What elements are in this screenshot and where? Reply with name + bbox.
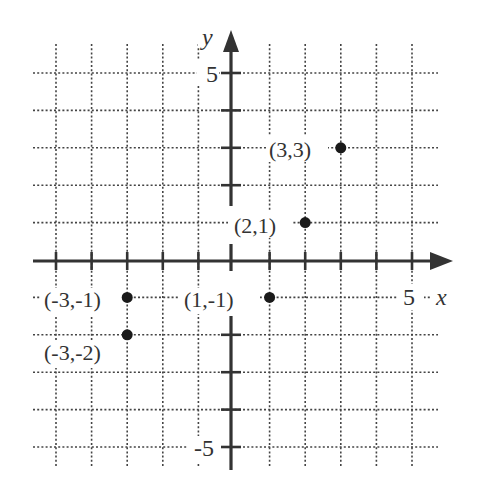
- x-axis-arrow-icon: [430, 252, 453, 270]
- y-axis-arrow-icon: [223, 30, 239, 52]
- point-label-2-1: (2,1): [234, 213, 276, 238]
- x-axis-label: x: [435, 284, 447, 310]
- y-axis-label: y: [200, 24, 213, 50]
- point-label-neg3-neg2: (-3,-2): [44, 340, 101, 365]
- data-point-marker: [264, 292, 275, 303]
- data-point-marker: [335, 142, 346, 153]
- x-tick-label-5: 5: [403, 284, 415, 310]
- axes: [33, 30, 453, 470]
- point-label-3-3: (3,3): [269, 137, 311, 162]
- label-backgrounds: [40, 26, 454, 462]
- data-point-marker: [300, 217, 311, 228]
- point-label-1-neg1: (1,-1): [184, 287, 233, 312]
- labels: y x 5 -5 5 (3,3) (2,1) (-3,-1) (1,-1) (-…: [44, 24, 447, 461]
- data-point-marker: [122, 329, 133, 340]
- point-label-neg3-neg1: (-3,-1): [44, 287, 101, 312]
- data-point-marker: [122, 292, 133, 303]
- y-tick-label-neg5: -5: [194, 435, 214, 461]
- y-tick-label-5: 5: [206, 61, 218, 87]
- coordinate-plane: y x 5 -5 5 (3,3) (2,1) (-3,-1) (1,-1) (-…: [0, 0, 478, 500]
